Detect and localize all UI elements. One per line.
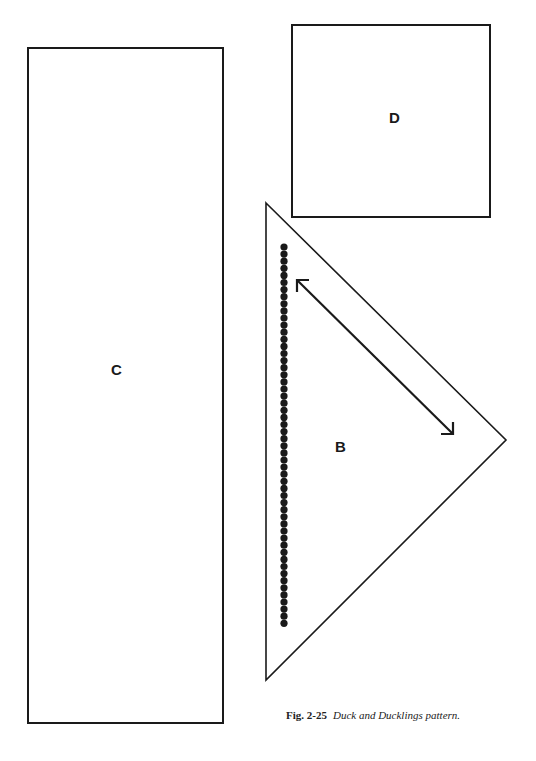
figure-title: Duck and Ducklings pattern. [333,709,460,721]
piece-c-outline [28,48,223,723]
fold-line-dots [280,243,287,627]
piece-d-label: D [389,109,400,126]
piece-b-outline [266,203,506,680]
figure-number: Fig. 2-25 [286,709,327,721]
piece-b-label: B [335,438,346,455]
grainline-arrow [297,280,453,434]
pattern-drawing [0,0,536,761]
figure-caption: Fig. 2-25Duck and Ducklings pattern. [286,709,460,721]
piece-c-label: C [111,361,122,378]
